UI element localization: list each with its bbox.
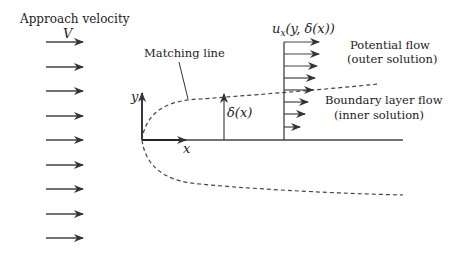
outer-solution-label: (outer solution) <box>347 52 437 66</box>
inner-solution-label: (inner solution) <box>334 108 424 122</box>
potential-flow-label: Potential flow <box>350 38 430 52</box>
delta-label: δ(x) <box>227 105 252 120</box>
velocity-symbol: V <box>63 26 74 41</box>
matching-line-label: Matching line <box>144 46 225 60</box>
boundary-layer-label: Boundary layer flow <box>325 93 443 107</box>
approach-velocity-arrows <box>46 42 83 238</box>
profile-label: ux(y, δ(x)) <box>272 21 335 38</box>
approach-velocity-label: Approach velocity <box>19 12 130 26</box>
velocity-profile-arrows <box>284 42 319 127</box>
matching-line-leader <box>179 62 188 99</box>
matching-line-lower <box>142 140 403 195</box>
x-axis-label: x <box>183 141 191 156</box>
boundary-layer-diagram: Approach velocity V y x Matching line δ(… <box>0 0 450 256</box>
y-axis-label: y <box>130 89 139 104</box>
